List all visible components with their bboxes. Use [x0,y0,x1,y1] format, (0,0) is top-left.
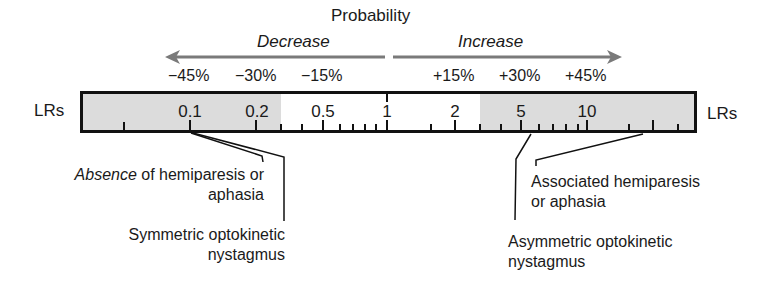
absence-text-line2: aphasia [10,185,264,205]
absence-text: of hemiparesis or [137,166,264,183]
leader-absence-hemiparesis [191,133,263,162]
finding-asymmetric-okn: Asymmetric optokinetic nystagmus [508,232,673,272]
asymmetric-okn-line2: nystagmus [508,252,673,272]
absence-emphasis: Absence [75,166,137,183]
leader-associated-hemiparesis [536,134,643,166]
finding-symmetric-okn: Symmetric optokinetic nystagmus [10,225,285,265]
leader-asymmetric-okn [515,134,531,220]
associated-hemiparesis-line1: Associated hemiparesis [531,172,700,192]
symmetric-okn-line2: nystagmus [10,245,285,265]
asymmetric-okn-line1: Asymmetric optokinetic [508,232,673,252]
finding-absence-hemiparesis: Absence of hemiparesis or aphasia [10,165,264,205]
symmetric-okn-line1: Symmetric optokinetic [10,225,285,245]
finding-associated-hemiparesis: Associated hemiparesis or aphasia [531,172,700,212]
associated-hemiparesis-line2: or aphasia [531,192,700,212]
